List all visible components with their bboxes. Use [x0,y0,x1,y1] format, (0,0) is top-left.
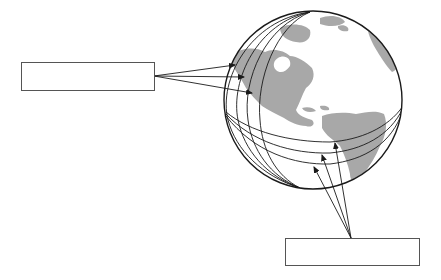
arrow-left-1 [154,65,235,76]
bottom-label-box [285,238,420,266]
left-label-box [21,62,155,91]
